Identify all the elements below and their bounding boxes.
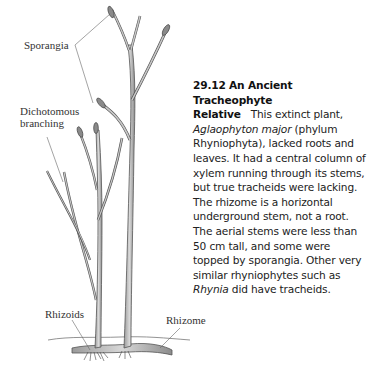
short-stem-icon [95,130,102,348]
caption-text-2: (phylum Rhyniophyta), lacked roots and l… [193,123,366,281]
genus-name: Rhynia [193,283,229,295]
species-name: Aglaophyton major [193,123,291,135]
caption-text-1: This extinct plant, [251,108,343,120]
label-dichotomous-branching: Dichotomous branching [20,105,79,129]
label-dichotomous-line2: branching [20,117,79,129]
sporangium-icon [161,24,171,37]
label-rhizome: Rhizome [166,314,206,326]
label-sporangia: Sporangia [24,39,69,51]
label-rhizoids: Rhizoids [45,308,84,320]
caption-text-3: did have tracheids. [229,283,331,295]
figure-caption: 29.12 An Ancient Tracheophyte RelativeTh… [193,78,369,297]
figure-29-12: Sporangia Dichotomous branching Rhizoids… [0,0,369,377]
label-dichotomous-line1: Dichotomous [20,105,79,117]
sporangium-icon [94,123,99,134]
figure-title-line2: Relative [193,108,241,120]
sporangium-icon [95,97,107,109]
tall-stem-icon [124,45,135,348]
figure-number: 29.12 [193,79,226,91]
